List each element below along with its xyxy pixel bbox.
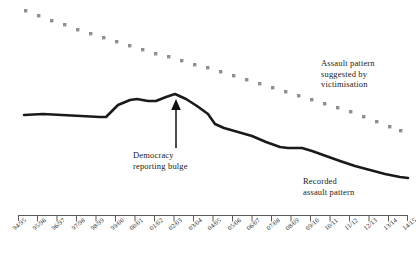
annotation-victimisation-label: Assault pattern suggested by victimisati… (321, 58, 413, 90)
bulge-arrow-icon (171, 99, 181, 148)
annotation-bulge-label: Democracy reporting bulge (133, 150, 237, 171)
chart-plot-area (0, 0, 416, 260)
assault-pattern-chart: 94/9595/9696/9797/9898/9999/0000/0101/02… (0, 0, 416, 260)
annotation-recorded-label: Recorded assault pattern (303, 176, 403, 197)
x-axis-ticks (38, 216, 389, 222)
